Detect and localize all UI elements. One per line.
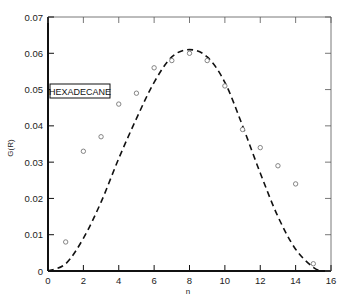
data-point (205, 58, 209, 62)
data-point (99, 135, 103, 139)
theoretical-curve (48, 50, 322, 271)
y-tick-label: 0.03 (25, 157, 44, 168)
x-tick-label: 6 (151, 275, 156, 286)
x-tick-label: 16 (326, 275, 337, 286)
data-point (293, 182, 297, 186)
data-point (134, 91, 138, 95)
chart: 0246810121416 00.010.020.030.040.050.060… (0, 0, 346, 302)
y-axis: 00.010.020.030.040.050.060.07 (25, 12, 332, 277)
y-tick-label: 0.04 (25, 120, 44, 131)
y-tick-label: 0.02 (25, 193, 44, 204)
data-point (152, 66, 156, 70)
y-tick-label: 0.05 (25, 84, 44, 95)
y-tick-label: 0 (38, 266, 43, 277)
data-point (240, 127, 244, 131)
x-tick-label: 12 (255, 275, 266, 286)
x-tick-label: 4 (116, 275, 121, 286)
data-point (311, 262, 315, 266)
y-tick-label: 0.06 (25, 48, 44, 59)
x-tick-label: 2 (81, 275, 86, 286)
y-tick-label: 0.01 (25, 229, 44, 240)
legend-box: HEXADECANE (49, 84, 111, 98)
x-tick-label: 14 (290, 275, 301, 286)
x-tick-label: 8 (187, 275, 192, 286)
data-point (258, 145, 262, 149)
x-axis-label: n (186, 287, 190, 296)
data-point (117, 102, 121, 106)
x-axis: 0246810121416 (45, 17, 336, 286)
data-point (170, 58, 174, 62)
y-axis-label: G(R) (6, 139, 15, 157)
annotation-label: HEXADECANE (49, 87, 111, 97)
data-point (223, 84, 227, 88)
x-tick-label: 0 (45, 275, 50, 286)
data-point (63, 240, 67, 244)
data-point (81, 149, 85, 153)
x-tick-label: 10 (220, 275, 231, 286)
data-points (63, 51, 315, 266)
data-point (276, 164, 280, 168)
data-point (187, 51, 191, 55)
y-tick-label: 0.07 (25, 12, 44, 23)
